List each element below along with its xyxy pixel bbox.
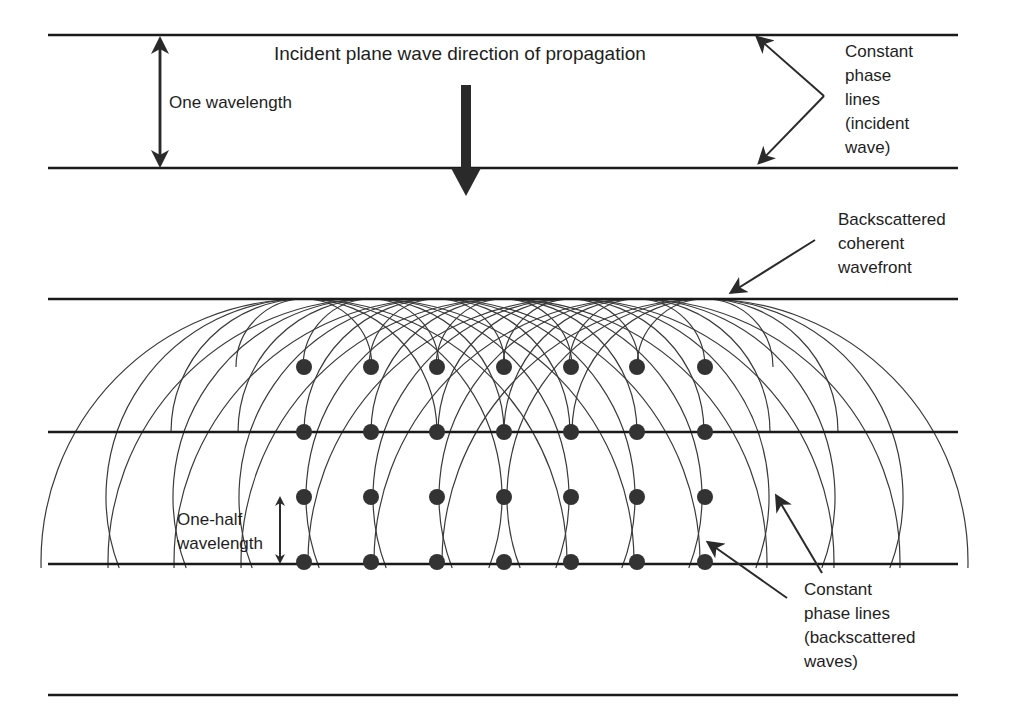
scatterer-dot: [296, 554, 312, 570]
wavelet-arc: [569, 299, 705, 367]
scatterers: [296, 359, 713, 570]
scatterer-dot: [429, 424, 445, 440]
scatterer-dot: [429, 359, 445, 375]
scatterer-dot: [563, 359, 579, 375]
one-half-wavelength-label: One-half wavelength: [177, 508, 263, 556]
scatterer-dot: [629, 489, 645, 505]
scatterer-dot: [496, 424, 512, 440]
scatterer-dot: [363, 424, 379, 440]
scatterer-dot: [697, 489, 713, 505]
scatterer-dot: [496, 359, 512, 375]
scatterer-dot: [296, 424, 312, 440]
scatterer-dot: [629, 359, 645, 375]
diagram-title: Incident plane wave direction of propaga…: [274, 42, 646, 66]
one-wavelength-label: One wavelength: [169, 91, 292, 115]
scatterer-dot: [363, 489, 379, 505]
scatterer-dot: [296, 359, 312, 375]
incident-phase-lines-label: Constant phase lines (incident wave): [845, 40, 913, 160]
backscattered-wavefront-label: Backscattered coherent wavefront: [838, 208, 946, 280]
scatterer-dot: [697, 359, 713, 375]
wavefront-pointer-icon: [732, 240, 815, 292]
scatterer-dot: [429, 554, 445, 570]
scatterer-dot: [563, 554, 579, 570]
scatterer-dot: [429, 489, 445, 505]
scatterer-dot: [296, 489, 312, 505]
propagation-direction-arrow-icon: [451, 85, 481, 196]
scatterer-dot: [496, 554, 512, 570]
scatterer-dot: [496, 489, 512, 505]
scatterer-dot: [363, 554, 379, 570]
scatterer-dot: [563, 424, 579, 440]
scatterer-dot: [563, 489, 579, 505]
wavelet-arc: [637, 299, 773, 367]
backscattered-phase-lines-label: Constant phase lines (backscattered wave…: [804, 578, 916, 674]
scatterer-dot: [629, 424, 645, 440]
scatterer-dot: [697, 554, 713, 570]
scatterer-dot: [697, 424, 713, 440]
scatterer-dot: [629, 554, 645, 570]
scatterer-dot: [363, 359, 379, 375]
incident-phase-pointer-icon: [758, 38, 824, 162]
